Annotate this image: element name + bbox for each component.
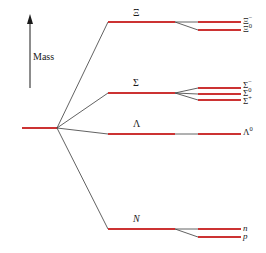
state-connectors [175,22,198,237]
mass-axis-label: Mass [33,52,54,62]
connector-xi-to-xi-zero [175,22,198,30]
family-connectors [57,22,108,229]
state-charge-sigma-plus: + [248,94,252,101]
baryon-mass-level-diagram: Mass Ξ Σ Λ N Ξ− Ξ0 Σ− Σ0 Σ+ Λ0 n p [0,0,266,253]
connector-origin-to-xi [57,22,108,128]
connector-origin-to-sigma [57,93,108,128]
state-charge-xi-minus: − [249,14,253,21]
family-label-nucleon: N [133,214,140,224]
up-arrow-icon [27,14,33,24]
connector-sigma-to-sigma-minus [175,88,198,93]
family-label-lambda: Λ [133,119,140,129]
state-label-proton: p [243,232,248,241]
state-charge-xi-zero: 0 [249,22,252,29]
family-label-xi: Ξ [133,8,139,18]
connector-origin-to-nucleon [57,128,108,229]
state-symbol-proton: p [243,231,248,241]
family-label-sigma: Σ [133,78,139,88]
connector-nucleon-to-proton [175,229,198,237]
state-label-lambda-zero: Λ0 [243,128,253,137]
state-levels [198,22,241,237]
family-levels [108,22,175,229]
state-charge-lambda-zero: 0 [250,125,253,132]
state-label-sigma-plus: Σ+ [243,97,252,106]
connector-origin-to-lambda [57,128,108,134]
state-label-xi-zero: Ξ0 [243,25,252,34]
state-charge-sigma-minus: − [248,78,252,85]
state-charge-sigma-zero: 0 [248,86,251,93]
